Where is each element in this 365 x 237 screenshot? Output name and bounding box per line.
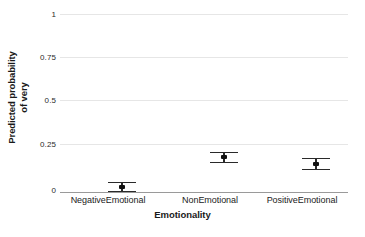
plot-area [60,10,348,192]
x-axis-title: Emotionality [0,209,365,220]
point-marker [119,185,125,190]
x-tick-label-nonemotional: NonEmotional [182,195,238,205]
gridline-025 [60,144,348,145]
errorbar-cap-lower [210,162,238,163]
x-tick-label-negativeemotional: NegativeEmotional [71,195,146,205]
errorbar-cap-lower [302,169,330,170]
point-marker [313,162,319,167]
y-tick-label-075: 0.75 [4,53,56,62]
y-tick-label-1: 1 [4,10,56,19]
gridline-1 [60,14,348,15]
y-tick-label-025: 0.25 [4,140,56,149]
x-axis-line [60,192,348,193]
y-tick-label-05: 0.5 [4,96,56,105]
point-marker [221,155,227,160]
gridline-05 [60,100,348,101]
gridline-075 [60,57,348,58]
x-tick-label-positiveemotional: PositiveEmotional [267,195,338,205]
y-tick-label-0: 0 [4,186,56,195]
chart-container: Predicted probability of very 1 0.75 0.5… [0,0,365,237]
